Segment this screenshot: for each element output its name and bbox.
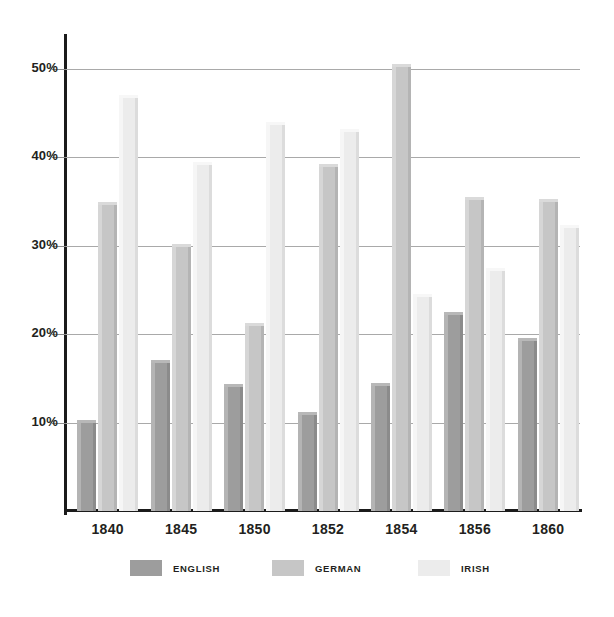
bar-edge-left xyxy=(224,384,228,511)
y-axis-label: 30% xyxy=(2,237,58,252)
bar-edge-right xyxy=(261,323,264,511)
bar-edge-left xyxy=(151,360,155,511)
bar-english-1856[interactable] xyxy=(444,312,463,511)
bar-german-1852[interactable] xyxy=(319,164,338,511)
chart-legend: ENGLISHGERMANIRISH xyxy=(0,560,614,590)
bar-english-1850[interactable] xyxy=(224,384,243,511)
bar-german-1840[interactable] xyxy=(98,202,117,511)
bar-edge-right xyxy=(481,197,484,511)
bar-cap xyxy=(193,162,212,165)
bar-english-1840[interactable] xyxy=(77,420,96,511)
bar-edge-right xyxy=(93,420,96,511)
bar-edge-right xyxy=(240,384,243,511)
bar-german-1854[interactable] xyxy=(392,64,411,511)
bar-edge-right xyxy=(387,383,390,511)
bar-edge-right xyxy=(135,95,138,511)
bar-cap xyxy=(444,312,463,315)
x-axis-label-1860: 1860 xyxy=(508,521,588,537)
bar-group-1856 xyxy=(444,38,505,511)
bar-cap xyxy=(560,225,579,228)
bar-edge-right xyxy=(576,225,579,511)
bar-edge-left xyxy=(560,225,564,511)
bar-edge-right xyxy=(335,164,338,511)
bar-german-1860[interactable] xyxy=(539,199,558,511)
bar-cap xyxy=(77,420,96,423)
bar-cap xyxy=(539,199,558,202)
bar-edge-left xyxy=(518,338,522,511)
legend-swatch-english xyxy=(130,560,162,576)
bar-edge-left xyxy=(340,129,344,511)
bar-irish-1852[interactable] xyxy=(340,129,359,511)
bar-group-1845 xyxy=(151,38,212,511)
bar-edge-left xyxy=(266,122,270,511)
bar-german-1850[interactable] xyxy=(245,323,264,511)
bar-cap xyxy=(98,202,117,205)
bar-cap xyxy=(119,95,138,98)
legend-label: ENGLISH xyxy=(173,563,220,574)
bar-english-1860[interactable] xyxy=(518,338,537,511)
bar-irish-1860[interactable] xyxy=(560,225,579,511)
bar-edge-left xyxy=(298,412,302,511)
bar-cap xyxy=(266,122,285,125)
bar-cap xyxy=(245,323,264,326)
plot-area xyxy=(66,38,580,511)
bar-group-1850 xyxy=(224,38,285,511)
bar-group-1860 xyxy=(518,38,579,511)
bar-edge-right xyxy=(429,294,432,511)
bar-edge-left xyxy=(539,199,543,511)
bar-edge-left xyxy=(172,244,176,511)
legend-label: IRISH xyxy=(461,563,490,574)
bar-edge-left xyxy=(486,268,490,511)
bar-edge-right xyxy=(188,244,191,511)
x-axis-label-1850: 1850 xyxy=(215,521,295,537)
bar-irish-1854[interactable] xyxy=(413,294,432,511)
legend-label: GERMAN xyxy=(315,563,361,574)
y-axis-label: 50% xyxy=(2,60,58,75)
bar-cap xyxy=(518,338,537,341)
x-axis-label-1854: 1854 xyxy=(361,521,441,537)
bar-cap xyxy=(465,197,484,200)
x-axis-label-1856: 1856 xyxy=(435,521,515,537)
bar-edge-left xyxy=(392,64,396,511)
bar-edge-right xyxy=(114,202,117,511)
bar-edge-right xyxy=(534,338,537,511)
bar-irish-1850[interactable] xyxy=(266,122,285,511)
bar-irish-1856[interactable] xyxy=(486,268,505,511)
bar-irish-1845[interactable] xyxy=(193,162,212,511)
bar-edge-right xyxy=(408,64,411,511)
bar-cap xyxy=(224,384,243,387)
bar-edge-left xyxy=(371,383,375,511)
bar-german-1845[interactable] xyxy=(172,244,191,511)
x-axis-label-1845: 1845 xyxy=(141,521,221,537)
bar-english-1852[interactable] xyxy=(298,412,317,511)
bar-cap xyxy=(172,244,191,247)
bar-edge-left xyxy=(413,294,417,511)
bar-edge-right xyxy=(167,360,170,511)
y-axis-label: 20% xyxy=(2,325,58,340)
bar-german-1856[interactable] xyxy=(465,197,484,511)
x-axis-label-1840: 1840 xyxy=(68,521,148,537)
legend-item-english[interactable]: ENGLISH xyxy=(130,560,220,576)
bar-irish-1840[interactable] xyxy=(119,95,138,511)
legend-item-irish[interactable]: IRISH xyxy=(418,560,490,576)
y-axis-label: 40% xyxy=(2,148,58,163)
bar-edge-left xyxy=(193,162,197,511)
legend-item-german[interactable]: GERMAN xyxy=(272,560,361,576)
bar-edge-right xyxy=(314,412,317,511)
legend-swatch-german xyxy=(272,560,304,576)
bar-cap xyxy=(371,383,390,386)
bar-english-1854[interactable] xyxy=(371,383,390,511)
bar-cap xyxy=(340,129,359,132)
bar-cap xyxy=(413,294,432,297)
bar-group-1840 xyxy=(77,38,138,511)
bar-group-1854 xyxy=(371,38,432,511)
bar-chart: 10%20%30%40%50% 184018451850185218541856… xyxy=(0,0,614,617)
legend-swatch-irish xyxy=(418,560,450,576)
bar-edge-right xyxy=(460,312,463,511)
bar-edge-right xyxy=(282,122,285,511)
bar-cap xyxy=(298,412,317,415)
bar-cap xyxy=(392,64,411,67)
bar-edge-right xyxy=(502,268,505,511)
x-axis-label-1852: 1852 xyxy=(288,521,368,537)
bar-english-1845[interactable] xyxy=(151,360,170,511)
